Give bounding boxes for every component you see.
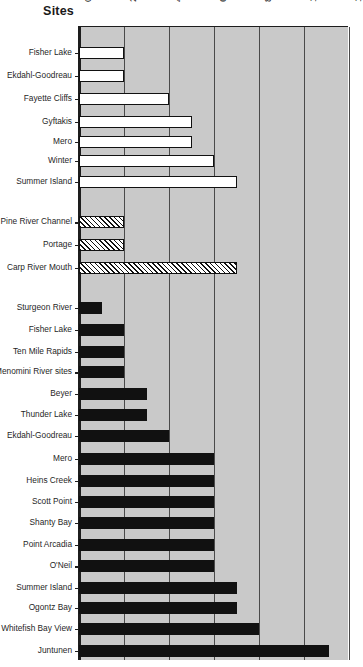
bar — [79, 155, 214, 167]
category-label: Ekdahl-Goodreau — [0, 70, 72, 80]
bar — [79, 93, 169, 105]
category-label: Heins Creek — [0, 475, 72, 485]
category-label: Whitefish Bay View — [0, 623, 72, 633]
category-label: Carp River Mouth — [0, 262, 72, 272]
gridline — [304, 27, 305, 660]
bar — [79, 623, 259, 635]
category-label: Fayette Cliffs — [0, 93, 72, 103]
bar — [79, 239, 124, 251]
category-label: O'Neil — [0, 560, 72, 570]
bar — [79, 324, 124, 336]
bar — [79, 582, 237, 594]
category-label: Ogontz Bay — [0, 602, 72, 612]
bar — [79, 136, 192, 148]
bar — [79, 366, 124, 378]
gridline — [259, 27, 260, 660]
x-tick-label: 8 — [262, 0, 273, 2]
category-label: Fisher Lake — [0, 47, 72, 57]
bar — [79, 409, 147, 421]
bar — [79, 302, 102, 314]
x-axis-tick-labels: 024681012 — [0, 0, 354, 26]
bar — [79, 346, 124, 358]
bar — [79, 475, 214, 487]
bar — [79, 496, 214, 508]
bar — [79, 176, 237, 188]
bar — [79, 560, 214, 572]
category-label: Fisher Lake — [0, 324, 72, 334]
bar — [79, 453, 214, 465]
category-label: Winter — [0, 155, 72, 165]
category-label: Point Arcadia — [0, 539, 72, 549]
bar — [79, 645, 329, 657]
category-label: Summer Island — [0, 176, 72, 186]
category-label: Gyftakis — [0, 116, 72, 126]
bar — [79, 262, 237, 274]
bar — [79, 602, 237, 614]
category-label: Thunder Lake — [0, 409, 72, 419]
x-tick-label: 2 — [127, 0, 138, 2]
x-tick-label: 12 — [352, 0, 363, 2]
bar — [79, 216, 124, 228]
bar — [79, 116, 192, 128]
x-tick-label: 4 — [172, 0, 183, 2]
category-label: Shanty Bay — [0, 517, 72, 527]
x-tick-label: 6 — [217, 0, 228, 2]
category-label: Pine River Channel — [0, 216, 72, 226]
category-label: Mero — [0, 453, 72, 463]
category-label: Ekdahl-Goodreau — [0, 430, 72, 440]
gridline — [349, 27, 350, 660]
bar — [79, 517, 214, 529]
category-label: Mero — [0, 136, 72, 146]
bar — [79, 430, 169, 442]
category-label: Juntunen — [0, 645, 72, 655]
category-label: Sturgeon River — [0, 302, 72, 312]
category-label: Portage — [0, 239, 72, 249]
plot-area — [78, 26, 348, 660]
bar — [79, 70, 124, 82]
gridline — [214, 27, 215, 660]
category-label: Ten Mile Rapids — [0, 346, 72, 356]
bar — [79, 388, 147, 400]
x-tick-label: 0 — [82, 0, 93, 2]
category-label: Menomini River sites — [0, 366, 72, 376]
x-tick-label: 10 — [307, 0, 318, 2]
category-label: Summer Island — [0, 582, 72, 592]
category-label: Scott Point — [0, 496, 72, 506]
bar — [79, 539, 214, 551]
category-label: Beyer — [0, 388, 72, 398]
bar — [79, 47, 124, 59]
